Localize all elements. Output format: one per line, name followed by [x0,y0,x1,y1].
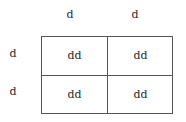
punnett-grid: dd dd dd dd [41,36,173,114]
cell-r2-c1: dd [42,76,107,114]
column-allele-1: d [55,8,85,22]
cell-r2-c2: dd [108,76,173,114]
row-allele-1: d [6,47,20,61]
cell-r1-c2: dd [108,37,173,75]
row-allele-2: d [6,85,20,99]
column-allele-2: d [120,8,150,22]
cell-r1-c1: dd [42,37,107,75]
